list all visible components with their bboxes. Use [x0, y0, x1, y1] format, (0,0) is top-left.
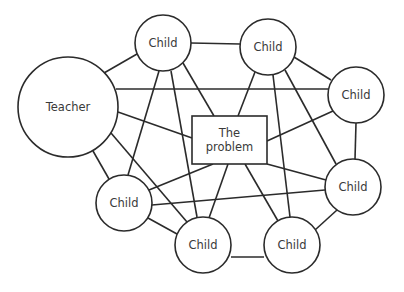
- edge-child4-child7: [152, 190, 325, 205]
- edge-teacher-child1: [104, 54, 137, 73]
- edge-child2-child3: [294, 57, 331, 80]
- edge-child6-child7: [148, 218, 177, 234]
- edge-child1-child2: [191, 43, 240, 44]
- child-label-6: Child: [188, 238, 217, 252]
- edge-child2-child4: [285, 70, 336, 164]
- child-label-2: Child: [253, 40, 282, 54]
- edge-child3-problem: [267, 111, 333, 141]
- edge-child2-problem: [238, 72, 255, 116]
- edge-child1-child7: [128, 71, 159, 175]
- child-label-3: Child: [341, 88, 370, 102]
- edge-child4-problem: [267, 164, 326, 180]
- child-label-1: Child: [148, 36, 177, 50]
- edge-child2-child5: [273, 75, 290, 217]
- edge-child3-child4: [355, 123, 356, 159]
- edge-child5-problem: [245, 164, 278, 221]
- child-label-5: Child: [277, 238, 306, 252]
- nodes-layer: [18, 15, 384, 273]
- problem-label-line1: The: [206, 126, 254, 140]
- relationship-diagram: Teacher Child Child Child Child Child Ch…: [0, 0, 404, 292]
- edge-teacher-child7: [93, 151, 109, 179]
- problem-label-line2: problem: [206, 140, 254, 154]
- edge-child4-child5: [315, 210, 337, 230]
- edge-child6-problem: [209, 164, 228, 218]
- child-label-7: Child: [109, 196, 138, 210]
- problem-label: The problem: [206, 126, 254, 155]
- edge-child7-problem: [149, 164, 213, 190]
- child-label-4: Child: [338, 180, 367, 194]
- teacher-label: Teacher: [46, 100, 91, 114]
